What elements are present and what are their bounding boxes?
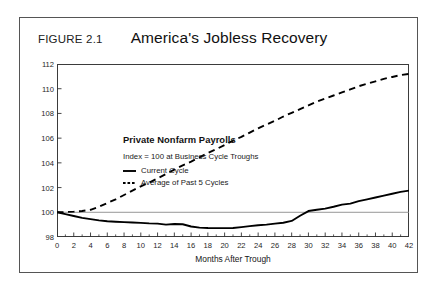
x-tick-label: 0 xyxy=(55,241,59,250)
legend-item: Current Cycle xyxy=(123,166,283,175)
x-tick-label: 24 xyxy=(254,241,262,250)
x-tick-label: 36 xyxy=(354,241,362,250)
x-tick-label: 6 xyxy=(105,241,109,250)
legend-subtitle: Index = 100 at Business Cycle Troughs xyxy=(123,152,283,161)
x-tick-label: 28 xyxy=(287,241,295,250)
x-tick-label: 22 xyxy=(237,241,245,250)
x-tick-label: 30 xyxy=(304,241,312,250)
x-tick-label: 42 xyxy=(405,241,413,250)
y-tick-label: 102 xyxy=(32,183,54,192)
chart-plot-area: Private Nonfarm Payrolls Index = 100 at … xyxy=(57,64,409,237)
figure-header: FIGURE 2.1 America's Jobless Recovery xyxy=(38,29,398,51)
chart-legend: Private Nonfarm Payrolls Index = 100 at … xyxy=(123,134,283,190)
y-tick-label: 100 xyxy=(32,208,54,217)
legend-item: Average of Past 5 Cycles xyxy=(123,178,283,187)
x-axis-title: Months After Trough xyxy=(57,254,409,264)
y-tick-label: 104 xyxy=(32,158,54,167)
x-tick-label: 10 xyxy=(137,241,145,250)
legend-title: Private Nonfarm Payrolls xyxy=(123,134,283,145)
figure-number: FIGURE 2.1 xyxy=(38,33,103,45)
figure-title: America's Jobless Recovery xyxy=(131,29,328,47)
x-tick-label: 18 xyxy=(204,241,212,250)
x-tick-label: 16 xyxy=(187,241,195,250)
x-tick-label: 40 xyxy=(388,241,396,250)
x-tick-label: 26 xyxy=(271,241,279,250)
y-tick-label: 106 xyxy=(32,134,54,143)
y-tick-label: 98 xyxy=(32,233,54,242)
dashed-line-icon xyxy=(123,179,136,187)
x-tick-label: 38 xyxy=(371,241,379,250)
y-tick-label: 112 xyxy=(32,60,54,69)
series-line-current-cycle xyxy=(57,191,409,228)
legend-item-label: Current Cycle xyxy=(141,166,189,175)
legend-items: Current CycleAverage of Past 5 Cycles xyxy=(123,166,283,187)
solid-line-icon xyxy=(123,167,136,175)
x-tick-label: 4 xyxy=(88,241,92,250)
x-tick-label: 8 xyxy=(122,241,126,250)
x-tick-label: 12 xyxy=(153,241,161,250)
x-axis-tick-labels: 024681012141618202224262830323436384042 xyxy=(57,241,409,253)
legend-item-label: Average of Past 5 Cycles xyxy=(141,178,228,187)
x-tick-label: 2 xyxy=(72,241,76,250)
x-tick-label: 20 xyxy=(220,241,228,250)
x-tick-label: 14 xyxy=(170,241,178,250)
y-tick-label: 108 xyxy=(32,109,54,118)
y-tick-label: 110 xyxy=(32,84,54,93)
x-tick-label: 34 xyxy=(338,241,346,250)
x-tick-label: 32 xyxy=(321,241,329,250)
y-axis-tick-labels: 98100102104106108110112 xyxy=(28,64,54,237)
